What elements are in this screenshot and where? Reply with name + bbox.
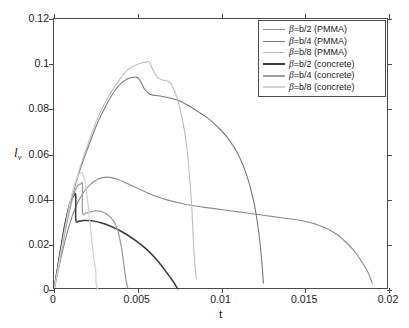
- y-axis-tick: [49, 64, 54, 65]
- y-axis-tick: [49, 109, 54, 110]
- y-axis-tick: [49, 19, 54, 20]
- legend-line-swatch: [263, 41, 285, 42]
- x-axis-title: t: [53, 308, 388, 320]
- series-line-3: [54, 193, 178, 290]
- x-axis-tick-labels: 00.0050.010.0150.02: [53, 293, 388, 309]
- y-axis-tick-right: [387, 109, 392, 110]
- y-axis-tick-right: [387, 200, 392, 201]
- y-axis-title: lv: [14, 145, 21, 162]
- y-axis-tick: [49, 155, 54, 156]
- x-axis-tick-top: [305, 14, 306, 19]
- legend-entry-5: β=b/8 (concrete): [262, 82, 381, 94]
- legend-entry-label: β=b/2 (PMMA): [289, 24, 347, 36]
- y-axis-tick-right: [387, 19, 392, 20]
- legend-line-swatch: [263, 86, 285, 88]
- y-axis-tick-label: 0.06: [29, 148, 49, 160]
- y-axis-tick: [49, 245, 54, 246]
- y-axis-tick-label: 0.04: [29, 193, 49, 205]
- x-axis-tick-top: [222, 14, 223, 19]
- legend-entry-2: β=b/8 (PMMA): [262, 47, 381, 59]
- y-axis-tick-right: [387, 155, 392, 156]
- legend-entry-label: β=b/8 (PMMA): [289, 47, 347, 59]
- figure-canvas: 00.020.040.060.080.10.12 lv 00.0050.010.…: [0, 0, 409, 328]
- x-axis-tick-top: [138, 14, 139, 19]
- x-axis-tick-label: 0.01: [210, 293, 230, 305]
- y-axis-tick-right: [387, 245, 392, 246]
- legend-entry-label: β=b/4 (concrete): [289, 70, 355, 82]
- x-axis-tick-top: [389, 14, 390, 19]
- legend-entry-label: β=b/2 (concrete): [289, 59, 355, 71]
- y-axis-tick: [49, 200, 54, 201]
- y-axis-tick-label: 0.08: [29, 102, 49, 114]
- series-line-2: [54, 61, 196, 290]
- y-axis-tick-label: 0.02: [29, 238, 49, 250]
- y-axis-tick-label: 0.1: [34, 57, 49, 69]
- x-axis-tick-top: [54, 14, 55, 19]
- legend-line-swatch: [263, 29, 285, 30]
- x-axis-tick-label: 0.02: [378, 293, 398, 305]
- y-axis-tick-label: 0: [43, 283, 49, 295]
- y-axis-title-subscript: v: [18, 152, 22, 162]
- y-axis-tick-labels: 00.020.040.060.080.10.12: [0, 18, 49, 289]
- chart-legend: β=b/2 (PMMA)β=b/4 (PMMA)β=b/8 (PMMA)β=b/…: [258, 20, 386, 97]
- y-axis-tick-right: [387, 64, 392, 65]
- x-axis-tick-label: 0: [50, 293, 56, 305]
- legend-entry-1: β=b/4 (PMMA): [262, 36, 381, 48]
- legend-entry-label: β=b/8 (concrete): [289, 82, 355, 94]
- legend-line-swatch: [263, 63, 285, 65]
- series-line-0: [54, 177, 372, 290]
- legend-line-swatch: [263, 52, 285, 53]
- x-axis-tick-label: 0.005: [124, 293, 150, 305]
- legend-entry-label: β=b/4 (PMMA): [289, 36, 347, 48]
- x-axis-tick-label: 0.015: [291, 293, 317, 305]
- legend-line-swatch: [263, 75, 285, 77]
- y-axis-tick-label: 0.12: [29, 12, 49, 24]
- legend-entry-0: β=b/2 (PMMA): [262, 24, 381, 36]
- legend-entry-4: β=b/4 (concrete): [262, 70, 381, 82]
- legend-entry-3: β=b/2 (concrete): [262, 59, 381, 71]
